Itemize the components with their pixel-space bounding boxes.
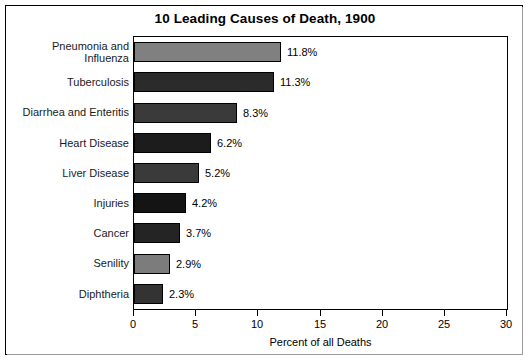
category-label: Diphtheria: [8, 288, 129, 301]
x-axis-tick: [382, 310, 383, 316]
x-axis-tick-label: 20: [362, 318, 402, 330]
x-axis-tick: [257, 310, 258, 316]
bar: [134, 223, 180, 243]
x-axis-tick: [320, 310, 321, 316]
bar: [134, 133, 211, 153]
bar-value-label: 3.7%: [186, 228, 211, 239]
bar: [134, 254, 170, 274]
category-axis-labels: Pneumonia andInfluenzaTuberculosisDiarrh…: [8, 36, 129, 310]
category-label-line: Liver Disease: [8, 167, 129, 180]
bar: [134, 72, 274, 92]
x-axis-tick-label: 10: [237, 318, 277, 330]
category-label-line: Diphtheria: [8, 288, 129, 301]
category-label-line: Injuries: [8, 197, 129, 210]
category-label-line: Heart Disease: [8, 137, 129, 150]
bar-value-label: 4.2%: [192, 198, 217, 209]
x-axis-tick: [506, 310, 507, 316]
bar-value-label: 5.2%: [205, 168, 230, 179]
category-label-line: Pneumonia and: [8, 40, 129, 53]
category-label-line: Senility: [8, 257, 129, 270]
category-label: Injuries: [8, 197, 129, 210]
bar-value-label: 2.9%: [176, 259, 201, 270]
category-label-line: Cancer: [8, 227, 129, 240]
bar: [134, 284, 163, 304]
category-label: Pneumonia andInfluenza: [8, 40, 129, 65]
bar: [134, 42, 281, 62]
x-axis-tick-label: 5: [175, 318, 215, 330]
x-axis-tick-label: 15: [300, 318, 340, 330]
chart-title: 10 Leading Causes of Death, 1900: [0, 11, 530, 26]
bar: [134, 163, 199, 183]
x-axis-title: Percent of all Deaths: [133, 336, 508, 348]
category-label: Liver Disease: [8, 167, 129, 180]
category-label: Heart Disease: [8, 137, 129, 150]
bar: [134, 103, 237, 123]
bars-container: 11.8%11.3%8.3%6.2%5.2%4.2%3.7%2.9%2.3%: [134, 37, 507, 309]
chart-figure: 10 Leading Causes of Death, 1900 Pneumon…: [0, 0, 530, 362]
x-axis-tick-label: 30: [486, 318, 526, 330]
bar-value-label: 11.3%: [280, 77, 310, 88]
category-label: Senility: [8, 257, 129, 270]
category-label-line: Tuberculosis: [8, 76, 129, 89]
category-label-line: Diarrhea and Enteritis: [8, 106, 129, 119]
category-label: Tuberculosis: [8, 76, 129, 89]
x-axis-tick: [133, 310, 134, 316]
bar-value-label: 8.3%: [243, 108, 268, 119]
category-label: Cancer: [8, 227, 129, 240]
bar-value-label: 6.2%: [217, 138, 242, 149]
bar-value-label: 11.8%: [287, 47, 317, 58]
x-axis-tick: [195, 310, 196, 316]
x-axis-tick-label: 0: [113, 318, 153, 330]
bar: [134, 193, 186, 213]
category-label: Diarrhea and Enteritis: [8, 106, 129, 119]
bar-value-label: 2.3%: [169, 289, 194, 300]
x-axis-tick: [444, 310, 445, 316]
category-label-line: Influenza: [8, 52, 129, 65]
x-axis-tick-label: 25: [424, 318, 464, 330]
